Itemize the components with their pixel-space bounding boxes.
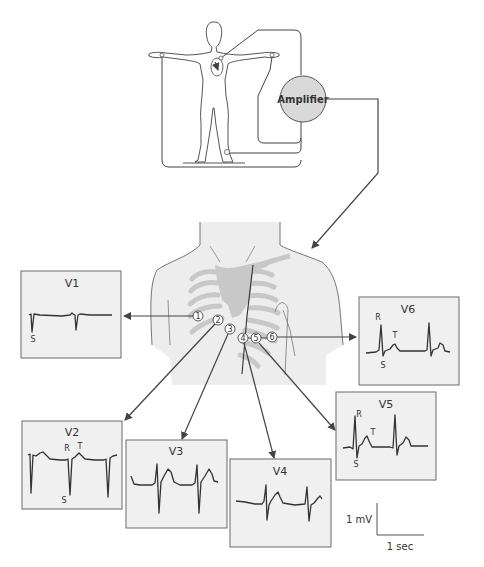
ecg-panel-v2: V2 R T S: [22, 421, 122, 509]
lead-label: V1: [65, 277, 80, 290]
svg-text:5: 5: [253, 334, 258, 343]
ecg-panel-v3: V3: [126, 440, 227, 528]
ecg-panel-v4: V4: [230, 459, 331, 547]
wave-label-t: T: [392, 331, 398, 340]
wave-label-r: R: [64, 444, 70, 453]
wave-label-s: S: [61, 496, 66, 505]
svg-text:3: 3: [227, 325, 232, 334]
wave-label-r: R: [375, 313, 381, 322]
amplifier-label: Amplifier: [277, 94, 328, 105]
ecg-panel-v5: V5 R T S: [336, 392, 436, 480]
electrode-3: 3: [225, 324, 235, 334]
svg-text:4: 4: [240, 334, 245, 343]
electrode-2: 2: [213, 315, 223, 325]
wave-label-s: S: [353, 460, 358, 469]
ecg-panel-v1: V1 S: [21, 271, 121, 358]
svg-text:1: 1: [195, 312, 200, 321]
wave-label-t: T: [77, 442, 83, 451]
electrode-1: 1: [193, 311, 203, 321]
svg-text:2: 2: [215, 316, 220, 325]
amplifier: Amplifier: [277, 76, 328, 122]
scale-time-label: 1 sec: [387, 541, 413, 552]
wave-label-r: R: [356, 410, 362, 419]
scale-bar: 1 mV 1 sec: [346, 503, 424, 552]
wave-label-s: S: [380, 361, 385, 370]
amplifier-output-arrow: [312, 99, 378, 248]
lead-label: V5: [379, 398, 394, 411]
scale-voltage-label: 1 mV: [346, 514, 372, 525]
electrode-4: 4: [238, 333, 248, 343]
lead-label: V6: [401, 303, 416, 316]
wave-label-s: S: [30, 335, 35, 344]
electrode-6: 6: [267, 332, 277, 342]
svg-text:6: 6: [269, 333, 274, 342]
lead-label: V3: [169, 445, 184, 458]
electrode-5: 5: [251, 333, 261, 343]
wave-label-t: T: [370, 428, 376, 437]
lead-label: V2: [65, 426, 80, 439]
lead-label: V4: [273, 465, 288, 478]
ecg-panel-v6: V6 R T S: [359, 297, 459, 385]
